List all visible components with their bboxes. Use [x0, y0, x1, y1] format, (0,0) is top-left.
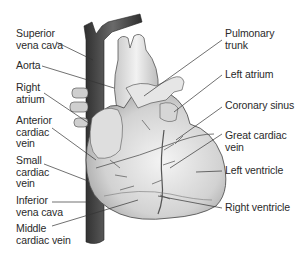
label-left-ventricle: Left ventricle: [225, 165, 283, 177]
label-great-cardiac-vein: Great cardiac vein: [225, 130, 287, 153]
label-right-atrium: Right atrium: [16, 82, 45, 105]
label-left-atrium: Left atrium: [225, 69, 274, 81]
label-inferior-vena-cava: Inferior vena cava: [16, 195, 63, 218]
label-small-cardiac-vein: Small cardiac vein: [16, 155, 49, 190]
heart-diagram: Superior vena cava Aorta Right atrium An…: [0, 0, 307, 258]
label-coronary-sinus: Coronary sinus: [225, 100, 294, 112]
heart-body: [86, 77, 226, 220]
label-aorta: Aorta: [16, 60, 41, 72]
label-superior-vena-cava: Superior vena cava: [16, 28, 63, 51]
label-middle-cardiac-vein: Middle cardiac vein: [16, 223, 71, 246]
label-pulmonary-trunk: Pulmonary trunk: [225, 28, 274, 51]
label-anterior-cardiac-vein: Anterior cardiac vein: [16, 115, 52, 150]
label-right-ventricle: Right ventricle: [225, 202, 290, 214]
